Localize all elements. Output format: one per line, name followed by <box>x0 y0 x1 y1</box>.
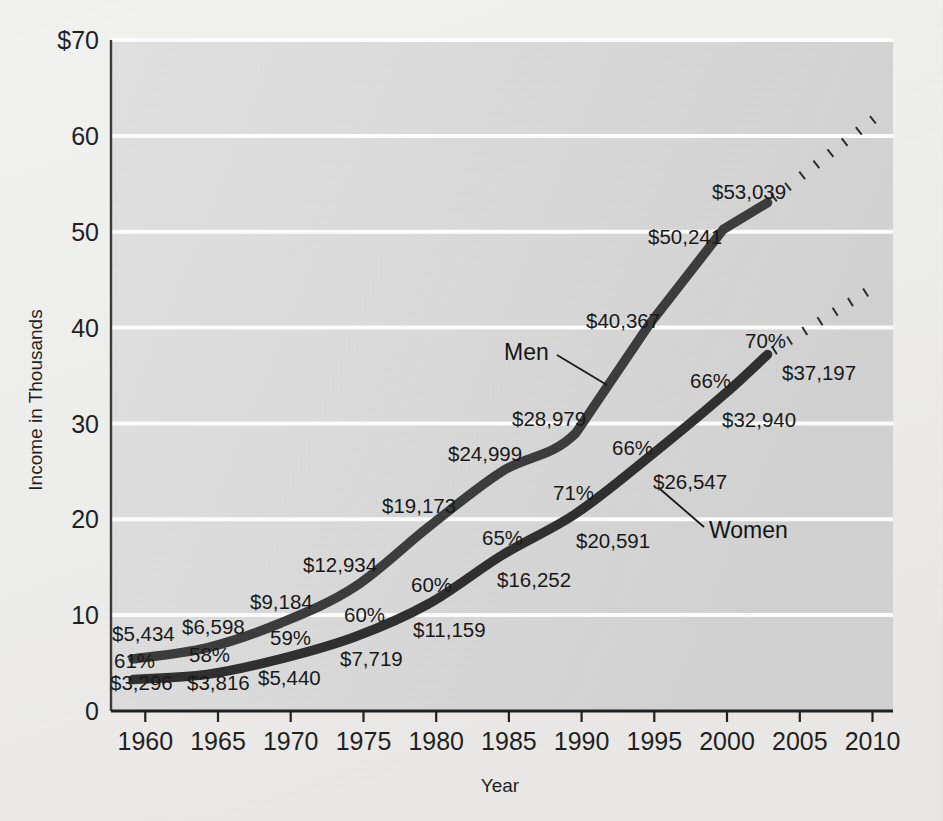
y-tick-label: 0 <box>85 697 99 725</box>
x-tick-label: 2010 <box>845 727 901 755</box>
y-tick-label: 30 <box>71 410 99 438</box>
x-axis-title: Year <box>481 775 520 796</box>
ratio-label: 60% <box>411 573 452 596</box>
ratio-label: 65% <box>482 526 523 549</box>
ratio-label: 70% <box>745 329 786 352</box>
x-tick-label: 1975 <box>336 727 392 755</box>
x-tick-label: 2000 <box>699 727 755 755</box>
y-tick-label: 50 <box>71 218 99 246</box>
x-tick-label: 1985 <box>481 727 537 755</box>
y-tick-label: 20 <box>71 505 99 533</box>
x-tick-label: 1965 <box>190 727 246 755</box>
men-value-label: $12,934 <box>303 553 377 576</box>
x-axis-tick-labels: 1960 1965 1970 1975 1980 1985 1990 1995 … <box>117 727 900 755</box>
chart-canvas: $70 60 50 40 30 20 10 0 1960 1965 1970 1… <box>0 0 943 821</box>
ratio-label: 58% <box>189 643 230 666</box>
y-tick-label: 40 <box>71 314 99 342</box>
men-value-label: $40,367 <box>586 309 660 332</box>
y-tick-label: 10 <box>71 601 99 629</box>
women-value-label: $16,252 <box>497 568 571 591</box>
income-by-gender-line-chart: $70 60 50 40 30 20 10 0 1960 1965 1970 1… <box>0 0 943 821</box>
x-tick-label: 1995 <box>626 727 682 755</box>
x-tick-label: 1980 <box>408 727 464 755</box>
ratio-label: 66% <box>612 436 653 459</box>
plot-area-background <box>111 40 893 711</box>
y-axis-title: Income in Thousands <box>25 309 46 490</box>
men-value-label: $50,241 <box>648 225 722 248</box>
x-tick-label: 1990 <box>554 727 610 755</box>
women-value-label: $32,940 <box>722 408 796 431</box>
women-value-label: $26,547 <box>653 470 727 493</box>
men-value-label: $5,434 <box>112 622 175 645</box>
women-value-label: $3,816 <box>187 671 250 694</box>
men-value-label: $9,184 <box>250 590 313 613</box>
ratio-label: 61% <box>114 649 155 672</box>
ratio-label: 71% <box>553 481 594 504</box>
x-tick-label: 2005 <box>772 727 828 755</box>
women-value-label: $7,719 <box>340 647 403 670</box>
men-value-label: $24,999 <box>448 442 522 465</box>
x-tick-label: 1960 <box>117 727 173 755</box>
y-tick-label: $70 <box>57 26 99 54</box>
women-series-label: Women <box>709 517 788 543</box>
ratio-label: 66% <box>690 369 731 392</box>
men-value-label: $28,979 <box>512 407 586 430</box>
women-value-label: $37,197 <box>782 361 856 384</box>
women-value-label: $5,440 <box>258 666 321 689</box>
x-tick-label: 1970 <box>263 727 319 755</box>
men-value-label: $53,039 <box>712 180 786 203</box>
men-series-label: Men <box>504 339 549 365</box>
women-value-label: $3,296 <box>110 671 173 694</box>
ratio-label: 59% <box>270 626 311 649</box>
women-value-label: $20,591 <box>576 529 650 552</box>
ratio-label: 60% <box>344 603 385 626</box>
men-value-label: $6,598 <box>182 615 245 638</box>
men-value-label: $19,173 <box>382 494 456 517</box>
y-tick-label: 60 <box>71 122 99 150</box>
women-value-label: $11,159 <box>413 618 486 641</box>
